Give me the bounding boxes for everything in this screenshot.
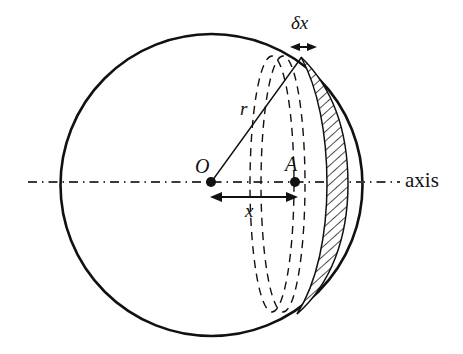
delta-x-measure-arrow (290, 43, 317, 51)
delta-x-label: δx (291, 13, 308, 32)
x-distance-label: x (245, 201, 253, 220)
diagram-canvas (0, 0, 463, 354)
radius-label: r (240, 99, 247, 118)
point-o-label: O (195, 156, 209, 176)
sphere-shell-diagram: δx r O A x axis (0, 0, 463, 354)
x-measure-arrow (210, 192, 298, 202)
axis-label: axis (405, 170, 439, 191)
point-a-label: A (285, 154, 297, 174)
disc-ellipse-back (250, 56, 294, 312)
point-a-dot (290, 177, 300, 187)
point-o-dot (206, 177, 216, 187)
